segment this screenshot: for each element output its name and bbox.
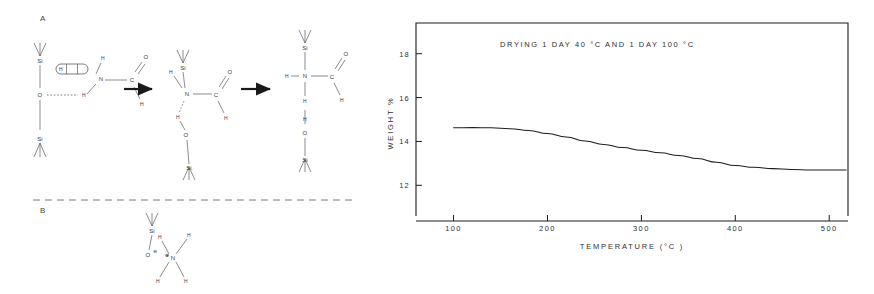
struct1-surface-top	[34, 43, 46, 56]
chart-x-ticks	[454, 215, 830, 221]
struct2-atom-h-lower: H	[176, 115, 180, 120]
struct1-atom-h-n-bottom: H	[82, 93, 86, 98]
structB-atom-o-minus: O	[146, 252, 151, 258]
chart-frame	[416, 23, 848, 216]
chart-x-tick-label: 100	[445, 224, 462, 233]
structB-atom-h-down-left: H	[156, 279, 160, 284]
struct2-atom-si-top: Si	[180, 65, 186, 71]
struct1-atom-h-formyl: H	[140, 102, 144, 107]
struct1-carbonyl	[134, 62, 145, 99]
chart-y-axis-title: WEIGHT %	[386, 96, 395, 149]
struct3-atom-si-top: Si	[302, 45, 308, 51]
struct1-atom-o-bridge: O	[38, 92, 43, 98]
struct2-atom-n: N	[185, 91, 190, 97]
struct3-atom-h-left: H	[285, 74, 289, 79]
chart-x-tick-label: 200	[539, 224, 556, 233]
struct3-atom-o-carbonyl: O	[344, 51, 349, 57]
chart-y-tick-label: 12	[399, 181, 410, 190]
structB-surface-top	[146, 213, 158, 226]
chart-y-tick-label: 18	[399, 49, 410, 58]
struct2-atom-si-bottom: Si	[186, 165, 192, 171]
struct2-surface-top	[177, 50, 189, 63]
struct1-surface-bottom	[34, 143, 46, 157]
struct3-atom-si-bottom: Si	[302, 157, 308, 163]
panel-label-b: B	[40, 206, 46, 215]
struct3-atom-h-silanol: H	[303, 117, 307, 122]
chart-curve-weight-loss	[454, 128, 847, 170]
tga-chart	[0, 0, 874, 294]
struct3-bonds	[291, 52, 328, 156]
structB-atom-h-up-right: H	[187, 233, 191, 238]
struct1-atom-h-n-top: H	[101, 56, 105, 61]
struct1-atom-o-carbonyl: O	[144, 54, 149, 60]
struct1-atom-h-highlighted: H	[59, 67, 63, 72]
struct3-atom-o-bridge: O	[303, 130, 308, 136]
chart-y-tick-label: 16	[399, 93, 410, 102]
struct2-atom-h-left: H	[169, 70, 173, 75]
structB-atom-h-down-right: H	[184, 279, 188, 284]
struct3-atom-c: C	[330, 74, 335, 80]
panel-label-a: A	[40, 14, 46, 23]
structB-atom-si: Si	[149, 228, 155, 234]
chart-x-tick-label: 500	[821, 224, 838, 233]
figure-lineart	[0, 0, 874, 294]
chart-title: DRYING 1 DAY 40 °C AND 1 DAY 100 °C	[500, 40, 695, 49]
chart-x-tick-label: 400	[727, 224, 744, 233]
struct1-nitrogen-bonds	[87, 63, 127, 94]
chart-y-tick-label: 14	[399, 137, 410, 146]
chart-x-axis-title: TEMPERATURE (°C )	[580, 242, 684, 251]
struct3-surface-top	[299, 30, 311, 43]
struct1-atom-c: C	[130, 77, 135, 83]
struct1-atom-n: N	[99, 76, 104, 82]
struct2-atom-o-carbonyl: O	[228, 69, 233, 75]
struct3-atom-h-formyl: H	[340, 98, 344, 103]
struct1-atom-si-bottom: Si	[37, 136, 43, 142]
chart-x-tick-label: 300	[633, 224, 650, 233]
struct2-atom-o-bridge: O	[184, 132, 189, 138]
struct1-atom-si-top: Si	[37, 58, 43, 64]
structB-atom-h-up-left: H	[158, 235, 162, 240]
struct3-atom-n: N	[303, 73, 308, 79]
structB-charge-plus: ⊕	[165, 253, 169, 258]
figure-container: A B Si O Si N H H C O H H Si N H H O Si …	[0, 0, 874, 294]
struct2-atom-h-formyl: H	[224, 116, 228, 121]
structB-charge-minus: ⊖	[153, 249, 157, 254]
struct3-atom-h-below-n: H	[303, 99, 307, 104]
struct2-atom-c: C	[214, 92, 219, 98]
structB-atom-n-plus: N	[171, 255, 176, 261]
struct3-carbonyl	[334, 58, 345, 95]
chart-y-ticks	[416, 54, 422, 186]
struct2-carbonyl	[218, 76, 229, 113]
